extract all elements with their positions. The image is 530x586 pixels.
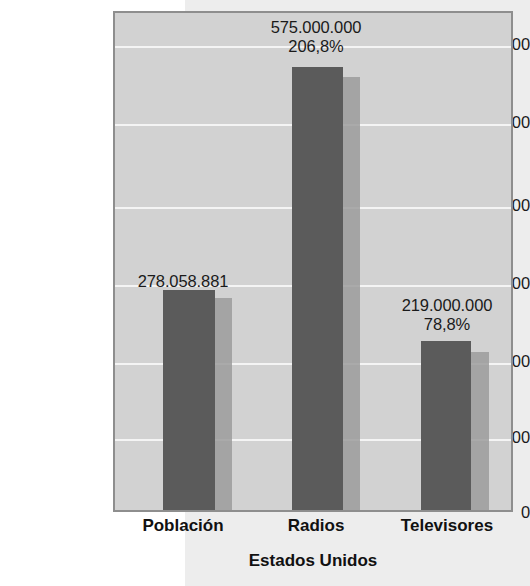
category-label-poblacion: Población (123, 516, 243, 536)
value-label-poblacion: 278.058.881 (123, 272, 243, 291)
category-label-radios: Radios (256, 516, 376, 536)
value-label-radios-number: 575.000.000 (271, 18, 362, 36)
x-axis-title: Estados Unidos (113, 551, 513, 571)
value-label-radios-percent: 206,8% (256, 37, 376, 56)
value-label-poblacion-number: 278.058.881 (138, 272, 229, 290)
value-label-televisores-percent: 78,8% (387, 315, 507, 334)
bar-chart-figure: 600.000.000 500.000.000 400.000.000 300.… (0, 0, 530, 586)
bar-poblacion[interactable] (163, 290, 215, 510)
value-label-radios: 575.000.000 206,8% (256, 18, 376, 56)
bar-radios[interactable] (292, 67, 343, 510)
plot-area (113, 11, 513, 512)
value-label-televisores: 219.000.000 78,8% (387, 296, 507, 334)
bar-televisores[interactable] (421, 341, 471, 510)
category-label-televisores: Televisores (382, 516, 512, 536)
value-label-televisores-number: 219.000.000 (402, 296, 493, 314)
